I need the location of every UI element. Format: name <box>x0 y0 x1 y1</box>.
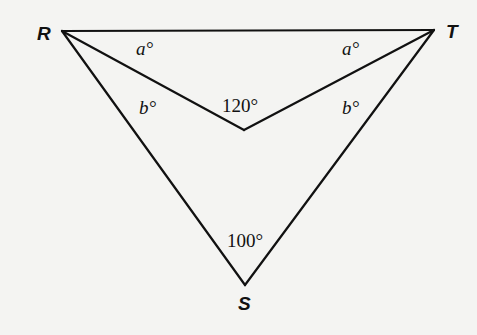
angle-label-a-left: a° <box>136 38 154 59</box>
vertex-label-R: R <box>37 23 51 44</box>
segment-TS <box>245 30 434 285</box>
vertex-label-S: S <box>238 293 251 314</box>
triangle-diagram: R T S a° a° b° b° 120° 100° <box>0 0 477 335</box>
angle-label-b-left: b° <box>139 97 157 118</box>
angle-label-a-right: a° <box>342 38 360 59</box>
angle-label-b-right: b° <box>342 97 360 118</box>
segment-TP <box>244 30 434 130</box>
angle-label-inner: 120° <box>222 95 258 116</box>
vertex-label-T: T <box>446 21 459 42</box>
angle-label-bottom: 100° <box>227 230 263 251</box>
segment-RS <box>62 31 245 285</box>
segment-RT <box>62 30 434 31</box>
